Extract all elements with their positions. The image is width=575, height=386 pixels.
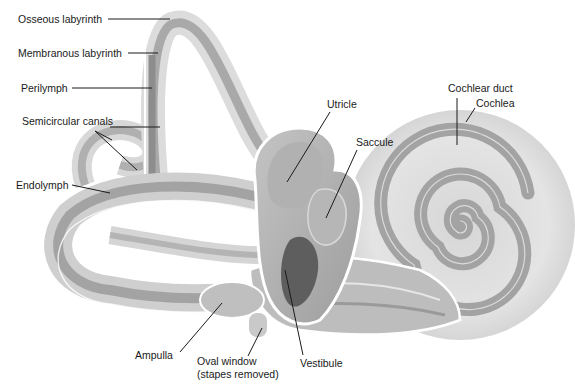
label-oval-window: Oval window — [197, 355, 257, 367]
label-ampulla: Ampulla — [135, 349, 173, 361]
label-semicircular-canals: Semicircular canals — [22, 115, 113, 127]
label-osseous-labyrinth: Osseous labyrinth — [18, 13, 102, 25]
label-stapes-removed: (stapes removed) — [197, 368, 279, 380]
label-vestibule: Vestibule — [300, 357, 343, 369]
label-endolymph: Endolymph — [16, 179, 69, 191]
label-saccule: Saccule — [356, 136, 393, 148]
inner-ear-diagram: Osseous labyrinth Membranous labyrinth P… — [0, 0, 575, 386]
oval-window-shape — [248, 312, 268, 338]
label-utricle: Utricle — [327, 98, 357, 110]
label-membranous-labyrinth: Membranous labyrinth — [18, 47, 122, 59]
label-perilymph: Perilymph — [21, 82, 68, 94]
label-cochlea: Cochlea — [476, 97, 515, 109]
label-cochlear-duct: Cochlear duct — [448, 82, 513, 94]
